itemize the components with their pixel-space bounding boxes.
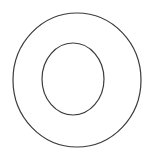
diagram-canvas [0,0,149,158]
canvas-background [0,0,149,158]
concentric-circles-diagram [0,0,149,158]
